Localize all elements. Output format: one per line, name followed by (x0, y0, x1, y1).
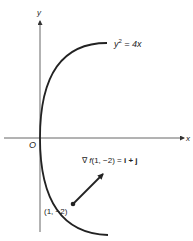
point-marker (71, 202, 76, 207)
x-axis-label: x (185, 134, 191, 143)
y-axis-label: y (36, 8, 42, 17)
gradient-vector-arrow (73, 174, 103, 204)
origin-label: O (29, 140, 36, 150)
gradient-label: ∇ f(1, −2) = i + j (81, 156, 138, 165)
point-label: (1, −2) (44, 207, 68, 216)
curve-equation-label: y2 = 4x (113, 38, 142, 49)
diagram-canvas: x y O y2 = 4x (1, −2) ∇ f(1, −2) = i + j (0, 0, 193, 241)
